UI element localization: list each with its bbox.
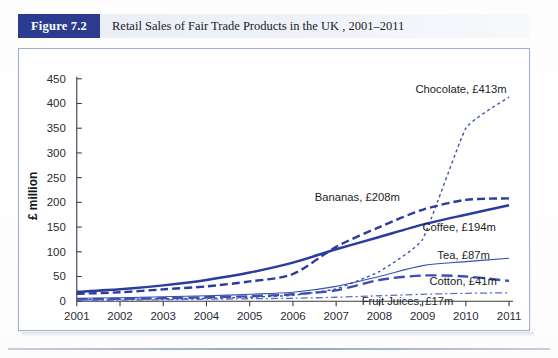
- series-label-fruit-juices: Fruit Juices, £17m: [362, 295, 454, 307]
- y-axis-title: £ million: [26, 172, 40, 220]
- bottom-rule: [8, 348, 550, 350]
- x-tick-label: 2004: [194, 310, 220, 322]
- x-tick-label: 2009: [410, 310, 435, 322]
- y-tick-label: 400: [47, 97, 66, 109]
- series-lines: [77, 97, 509, 300]
- y-tick-label: 0: [59, 295, 65, 307]
- x-tick-label: 2002: [107, 310, 132, 322]
- series-label-cotton: Cotton, £41m: [429, 275, 496, 287]
- x-tick-label: 2011: [497, 310, 522, 322]
- figure-title: Retail Sales of Fair Trade Products in t…: [100, 14, 530, 38]
- figure-number-badge: Figure 7.2: [18, 14, 100, 38]
- figure-caption-bar: Figure 7.2 Retail Sales of Fair Trade Pr…: [18, 14, 530, 38]
- series-label-tea: Tea, £87m: [437, 250, 489, 262]
- x-axis-tick-labels: 2001200220032004200520062007200820092010…: [64, 310, 521, 322]
- series-line-chocolate: [77, 97, 509, 300]
- y-tick-label: 250: [47, 172, 66, 184]
- y-tick-label: 150: [47, 221, 66, 233]
- x-tick-label: 2010: [453, 310, 478, 322]
- series-label-chocolate: Chocolate, £413m: [415, 83, 506, 95]
- line-chart: 050100150200250300350400450 200120022003…: [19, 49, 529, 330]
- y-tick-label: 100: [47, 246, 66, 258]
- x-tick-label: 2006: [280, 310, 305, 322]
- y-axis-tick-marks: [77, 79, 82, 301]
- figure-page: Figure 7.2 Retail Sales of Fair Trade Pr…: [0, 0, 558, 358]
- y-tick-label: 300: [47, 147, 66, 159]
- series-label-coffee: Coffee, £194m: [422, 221, 496, 233]
- series-label-bananas: Bananas, £208m: [315, 191, 400, 203]
- y-tick-label: 50: [53, 270, 66, 282]
- y-axis-tick-labels: 050100150200250300350400450: [47, 73, 66, 307]
- x-tick-label: 2008: [367, 310, 392, 322]
- y-tick-label: 450: [47, 73, 66, 85]
- series-annotations: Chocolate, £413mBananas, £208mCoffee, £1…: [315, 83, 507, 307]
- x-tick-label: 2007: [323, 310, 348, 322]
- x-tick-label: 2005: [237, 310, 262, 322]
- chart-frame: 050100150200250300350400450 200120022003…: [18, 48, 530, 331]
- page-shadow: [22, 332, 534, 337]
- x-tick-label: 2001: [64, 310, 89, 322]
- x-tick-label: 2003: [151, 310, 176, 322]
- y-tick-label: 200: [47, 196, 66, 208]
- y-tick-label: 350: [47, 122, 66, 134]
